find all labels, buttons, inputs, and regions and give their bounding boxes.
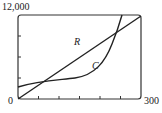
chart-plot [0, 0, 162, 113]
x-max-label: 300 [144, 96, 159, 106]
series-r-line [18, 16, 141, 99]
series-c-label: C [92, 61, 99, 71]
y-max-label: 12,000 [2, 2, 30, 12]
series-r-label: R [74, 37, 80, 47]
series-c-curve [18, 15, 122, 87]
origin-label: 0 [8, 96, 13, 106]
